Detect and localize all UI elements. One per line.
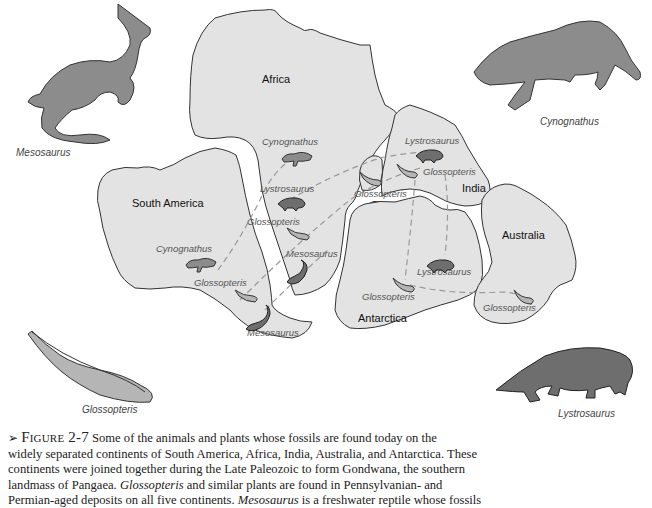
caption-em-mesosaurus: Mesosaurus xyxy=(238,493,299,507)
label-madagascar-glossopteris: Glossopteris xyxy=(354,188,407,199)
caption-text-4b: and similar plants are found in Pennsylv… xyxy=(184,478,443,492)
label-south-america: South America xyxy=(132,197,204,209)
label-africa-lystrosaurus: Lystrosaurus xyxy=(260,183,314,194)
figure-label: Figure 2-7 xyxy=(21,429,89,445)
label-glossopteris-illustration: Glossopteris xyxy=(82,404,138,415)
caption-line-4: landmass of Pangaea. Glossopteris and si… xyxy=(8,478,648,494)
arrow-icon: ➢ xyxy=(8,431,18,445)
caption-text-5b: is a freshwater reptile whose fossils xyxy=(299,493,482,507)
label-africa: Africa xyxy=(262,73,291,85)
cynognathus-illustration xyxy=(474,21,641,110)
caption-line-5: Permian-aged deposits on all five contin… xyxy=(8,493,648,508)
caption-em-glossopteris: Glossopteris xyxy=(120,478,184,492)
label-india: India xyxy=(462,182,487,194)
label-india-glossopteris: Glossopteris xyxy=(423,166,476,177)
caption-text-1: Some of the animals and plants whose fos… xyxy=(89,431,437,445)
mesosaurus-illustration xyxy=(28,4,150,144)
label-india-lystrosaurus: Lystrosaurus xyxy=(405,135,459,146)
gondwana-fossil-map: Africa South America India Australia Ant… xyxy=(0,0,652,420)
continent-antarctica xyxy=(335,196,483,329)
label-antarctica: Antarctica xyxy=(358,312,408,324)
glossopteris-illustration xyxy=(28,331,152,402)
label-lystrosaurus-illustration: Lystrosaurus xyxy=(558,408,615,419)
label-mesosaurus-illustration: Mesosaurus xyxy=(16,147,70,158)
label-sa-cynognathus: Cynognathus xyxy=(156,243,212,254)
figure-caption: ➢ Figure 2-7 Some of the animals and pla… xyxy=(8,430,648,508)
label-africa-glossopteris: Glossopteris xyxy=(247,216,300,227)
label-africa-mesosaurus: Mesosaurus xyxy=(286,248,338,259)
lystrosaurus-illustration xyxy=(496,348,633,402)
label-sa-glossopteris: Glossopteris xyxy=(194,277,247,288)
label-antarctica-glossopteris: Glossopteris xyxy=(362,291,415,302)
caption-line-1: ➢ Figure 2-7 Some of the animals and pla… xyxy=(8,430,648,447)
caption-line-2: widely separated continents of South Ame… xyxy=(8,447,648,463)
caption-text-4a: landmass of Pangaea. xyxy=(8,478,120,492)
label-africa-cynognathus: Cynognathus xyxy=(262,136,318,147)
label-cynognathus-illustration: Cynognathus xyxy=(540,116,599,127)
caption-line-3: continents were joined together during t… xyxy=(8,462,648,478)
label-australia: Australia xyxy=(502,229,546,241)
caption-text-5a: Permian-aged deposits on all five contin… xyxy=(8,493,238,507)
